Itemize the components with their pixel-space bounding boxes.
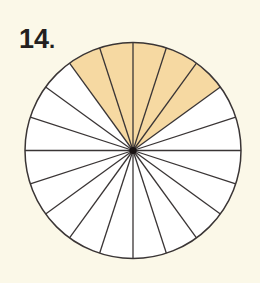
fraction-circle-diagram bbox=[0, 0, 260, 283]
center-point bbox=[130, 147, 137, 154]
